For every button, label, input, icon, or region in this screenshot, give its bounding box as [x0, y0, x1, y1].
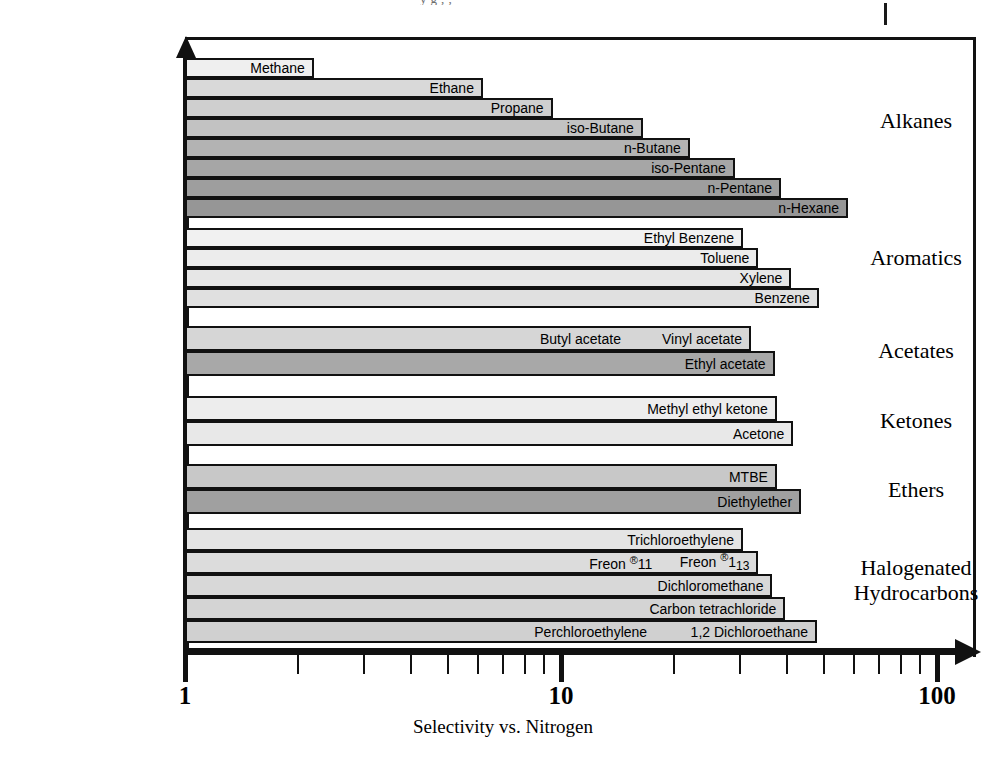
bar: Benzene: [185, 288, 819, 308]
bar: Ethane: [185, 78, 483, 98]
bar-label: Propane: [491, 101, 551, 115]
bar: Dichloromethane: [185, 574, 772, 597]
bar: Trichloroethylene: [185, 528, 743, 551]
category-label-ketones: Ketones: [826, 408, 1006, 433]
x-tick-label: 100: [918, 682, 956, 710]
plot-frame-top: [185, 37, 976, 40]
bar-label: Xylene: [740, 271, 790, 285]
bar-label: Toluene: [700, 251, 756, 265]
bar-label: MTBE: [729, 470, 775, 484]
bar: Carbon tetrachloride: [185, 597, 785, 620]
bar: Diethylether: [185, 489, 801, 514]
bar-label: iso-Pentane: [651, 161, 733, 175]
bar: n-Butane: [185, 138, 690, 158]
bar: Freon ®113Freon ®11: [185, 551, 758, 574]
bar-label: Ethane: [430, 81, 481, 95]
x-tick-minor: [900, 655, 902, 674]
category-label-acetates: Acetates: [826, 338, 1006, 363]
bar: Ethyl acetate: [185, 351, 775, 376]
bar: iso-Butane: [185, 118, 643, 138]
x-tick-major: [559, 655, 564, 682]
bar-label: iso-Butane: [567, 121, 641, 135]
bar-label: n-Pentane: [708, 181, 780, 195]
bar: Methyl ethyl ketone: [185, 396, 777, 421]
bar: Propane: [185, 98, 553, 118]
bar: iso-Pentane: [185, 158, 735, 178]
bar-label: Freon ®113: [680, 552, 757, 572]
bar-label: Carbon tetrachloride: [649, 602, 783, 616]
category-label-ethers: Ethers: [826, 477, 1006, 502]
x-axis-title: Selectivity vs. Nitrogen: [0, 716, 1006, 738]
bar-label: Benzene: [755, 291, 817, 305]
x-tick-minor: [477, 655, 479, 674]
x-tick-minor: [673, 655, 675, 674]
category-label-aromatics: Aromatics: [826, 245, 1006, 270]
bar: Ethyl Benzene: [185, 228, 743, 248]
bar: Acetone: [185, 421, 793, 446]
page-crop-artifact: y g , ,: [420, 0, 890, 5]
bar-label: Ethyl acetate: [685, 357, 773, 371]
bar-label: Ethyl Benzene: [644, 231, 741, 245]
x-axis-arrowhead: [955, 639, 981, 665]
selectivity-chart-figure: y g , , MethaneEthanePropaneiso-Butanen-…: [0, 0, 1006, 764]
bar: Xylene: [185, 268, 791, 288]
bar-label: Dichloromethane: [658, 579, 771, 593]
x-tick-minor: [447, 655, 449, 674]
bar-secondary-label: Butyl acetate: [540, 332, 621, 346]
x-tick-minor: [853, 655, 855, 674]
x-tick-minor: [823, 655, 825, 674]
bar-secondary-label: Freon ®11: [589, 554, 652, 571]
bar: 1,2 DichloroethanePerchloroethylene: [185, 620, 817, 643]
x-tick-label: 1: [179, 682, 192, 710]
bar-label: n-Hexane: [778, 201, 846, 215]
bar-label: Acetone: [733, 427, 791, 441]
bar-label: Trichloroethylene: [627, 533, 741, 547]
x-tick-minor: [878, 655, 880, 674]
bar-label: 1,2 Dichloroethane: [691, 625, 816, 639]
bar: Vinyl acetateButyl acetate: [185, 326, 751, 351]
bar-label: Methane: [250, 61, 311, 75]
x-tick-label: 10: [549, 682, 574, 710]
bar: Toluene: [185, 248, 758, 268]
x-tick-major: [935, 655, 940, 682]
page-margin-rule: [884, 3, 887, 25]
x-tick-minor: [410, 655, 412, 674]
x-tick-minor: [363, 655, 365, 674]
bar-label: Diethylether: [717, 495, 799, 509]
x-tick-minor: [502, 655, 504, 674]
category-label-halogenated: HalogenatedHydrocarbons: [826, 555, 1006, 605]
bar-label: Vinyl acetate: [662, 332, 749, 346]
bar: Methane: [185, 58, 314, 78]
x-tick-minor: [524, 655, 526, 674]
bar-label: n-Butane: [624, 141, 688, 155]
bar-label: Methyl ethyl ketone: [647, 402, 775, 416]
x-tick-minor: [739, 655, 741, 674]
category-label-alkanes: Alkanes: [826, 108, 1006, 133]
x-tick-minor: [786, 655, 788, 674]
bar: n-Pentane: [185, 178, 781, 198]
x-tick-minor: [297, 655, 299, 674]
bar: n-Hexane: [185, 198, 848, 218]
x-tick-minor: [543, 655, 545, 674]
bar: MTBE: [185, 464, 777, 489]
x-axis-line: [183, 648, 973, 655]
bar-secondary-label: Perchloroethylene: [534, 625, 647, 639]
x-tick-minor: [919, 655, 921, 674]
x-tick-major: [183, 655, 188, 682]
